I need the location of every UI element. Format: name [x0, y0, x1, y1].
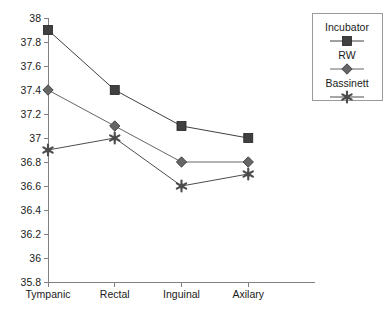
- x-axis-tick-label: Inguinal: [163, 288, 200, 300]
- data-point-marker: [43, 85, 53, 95]
- chart-legend: IncubatorRWBassinett: [312, 13, 382, 102]
- x-axis-tick-group: TympanicRectalInguinalAxilary: [26, 282, 265, 300]
- y-axis-tick-label: 36.4: [21, 204, 42, 216]
- data-point-marker: [110, 121, 120, 131]
- temperature-line-chart: 3837.837.637.437.23736.836.636.436.23635…: [0, 0, 390, 314]
- y-axis-tick-label: 37.2: [21, 108, 42, 120]
- data-point-marker: [244, 134, 253, 143]
- y-axis-tick-label: 36: [29, 252, 41, 264]
- data-point-marker: [44, 26, 53, 35]
- y-axis-tick-label: 35.8: [21, 276, 42, 288]
- y-axis-tick-label: 37: [29, 132, 41, 144]
- y-axis-tick-label: 38: [29, 12, 41, 24]
- series-line: [48, 30, 248, 138]
- x-axis-tick-label: Tympanic: [26, 288, 71, 300]
- series-rw: [43, 85, 254, 167]
- chart-canvas: 3837.837.637.437.23736.836.636.436.23635…: [0, 0, 390, 314]
- data-point-marker: [176, 157, 186, 167]
- y-axis-tick-label: 37.4: [21, 84, 42, 96]
- legend-label-1: RW: [338, 49, 355, 61]
- legend-marker-0: [343, 37, 352, 46]
- data-point-marker: [243, 157, 253, 167]
- y-axis-tick-label: 36.8: [21, 156, 42, 168]
- series-line: [48, 90, 248, 162]
- y-axis-tick-label: 37.8: [21, 36, 42, 48]
- x-axis-tick-label: Rectal: [100, 288, 130, 300]
- data-point-marker: [244, 169, 253, 180]
- legend-label-2: Bassinett: [325, 77, 368, 89]
- y-axis-tick-label: 37.6: [21, 60, 42, 72]
- y-axis-tick-group: 3837.837.637.437.23736.836.636.436.23635…: [21, 12, 48, 288]
- x-axis-tick-label: Axilary: [232, 288, 264, 300]
- data-point-marker: [43, 145, 52, 156]
- data-point-marker: [177, 122, 186, 131]
- data-point-marker: [177, 181, 186, 192]
- data-point-marker: [110, 86, 119, 95]
- y-axis-tick-label: 36.2: [21, 228, 42, 240]
- series-incubator: [44, 26, 253, 143]
- y-axis-tick-label: 36.6: [21, 180, 42, 192]
- legend-label-0: Incubator: [325, 21, 369, 33]
- series-group: [43, 26, 254, 192]
- data-point-marker: [110, 133, 119, 144]
